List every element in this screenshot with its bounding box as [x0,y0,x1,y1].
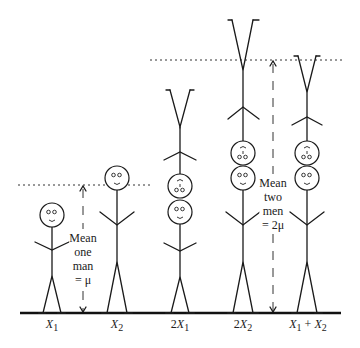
annotation-line: Mean [69,231,96,245]
diagram-canvas [0,0,360,348]
figure-2x2 [226,20,260,313]
annotation-line: = μ [69,273,96,287]
label-x2: X2 [111,317,123,333]
label-x1-plus-x2: X1 + X2 [289,317,326,333]
head-icon [40,203,64,227]
annotation-line: = 2μ [259,218,286,232]
annotation-line: two [259,190,286,204]
stick-figure-diagram: Mean one man = μ Mean two men = 2μ X1 X2… [0,0,360,348]
annotation-line: man [69,259,96,273]
figure-x2 [100,166,134,313]
annotation-line: one [69,245,96,259]
annotation-line: Mean [259,176,286,190]
head-icon [295,166,319,190]
figure-2x1 [164,90,196,313]
label-2x2: 2X2 [234,317,252,333]
head-icon [105,166,129,190]
head-icon [231,166,255,190]
figure-x1-plus-x2 [290,56,324,313]
two-men-annotation: Mean two men = 2μ [259,174,286,234]
one-man-annotation: Mean one man = μ [69,229,96,289]
annotation-line: men [259,204,286,218]
label-x1: X1 [46,317,58,333]
head-icon [168,200,192,224]
figure-x1 [35,203,69,313]
label-2x1: 2X1 [171,317,189,333]
